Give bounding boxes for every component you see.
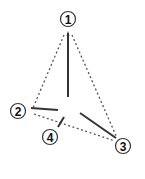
arrow-tip-1 <box>67 31 70 36</box>
vertex-2: 2 <box>11 104 26 119</box>
vertex-label: 2 <box>15 105 22 119</box>
vertex-3: 3 <box>116 139 131 154</box>
vertex-label: 4 <box>47 131 54 145</box>
vertex-label: 1 <box>65 13 72 27</box>
solid-bond-to-3 <box>80 113 116 138</box>
vertex-label: 3 <box>120 140 127 154</box>
vertex-1: 1 <box>61 12 76 27</box>
dotted-edge-1-2 <box>33 35 64 108</box>
solid-bond-to-4 <box>58 117 64 127</box>
vertex-4: 4 <box>43 130 58 145</box>
solid-bond-to-2 <box>31 108 58 110</box>
tetrahedron-diagram: 1 2 3 4 <box>0 0 145 179</box>
